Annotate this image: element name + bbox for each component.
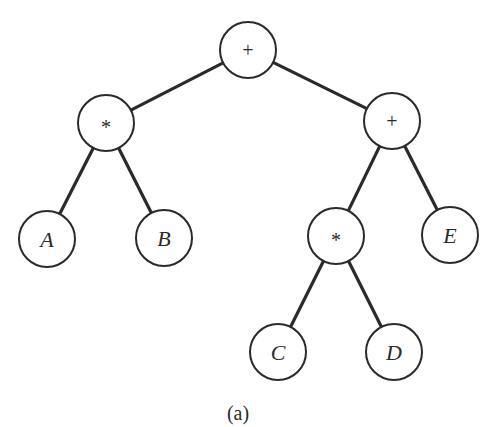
edge-n1-n3 — [273, 62, 367, 108]
edge-n2-n5 — [119, 148, 152, 213]
node-label: + — [242, 39, 253, 61]
node-label: + — [386, 110, 397, 132]
edge-n1-n2 — [131, 63, 223, 110]
node-label: D — [385, 340, 402, 365]
node-label: C — [271, 340, 286, 365]
expression-tree-diagram: +*+AB*ECD (a) — [0, 0, 490, 427]
tree-node-a-n4: A — [19, 211, 75, 267]
node-label: B — [157, 226, 170, 251]
figure-caption: (a) — [227, 402, 249, 425]
node-label: A — [38, 227, 54, 252]
tree-node-b-n5: B — [136, 210, 192, 266]
node-label: * — [101, 116, 111, 138]
edge-n6-n9 — [349, 261, 382, 327]
edge-n2-n4 — [60, 148, 94, 214]
tree-node-times-n6: * — [308, 208, 364, 264]
tree-node-d-n9: D — [366, 324, 422, 380]
edge-n3-n6 — [348, 146, 379, 211]
tree-node-times-n2: * — [78, 95, 134, 151]
tree-nodes: +*+AB*ECD — [19, 22, 478, 380]
edge-n3-n7 — [405, 146, 438, 210]
tree-node-e-n7: E — [422, 207, 478, 263]
node-label: * — [331, 229, 341, 251]
tree-node-plus-n3: + — [364, 93, 420, 149]
node-label: E — [442, 223, 457, 248]
tree-node-plus-n1: + — [220, 22, 276, 78]
tree-node-c-n8: C — [250, 324, 306, 380]
edge-n6-n8 — [291, 261, 324, 327]
